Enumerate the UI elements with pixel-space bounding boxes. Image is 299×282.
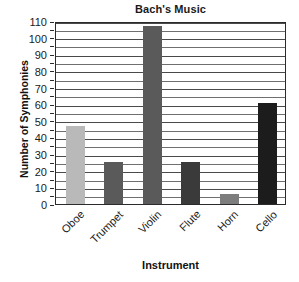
y-axis-tick-mark (50, 205, 54, 206)
y-axis-tick-label: 60 (35, 100, 47, 111)
x-axis-tick-label: Oboe (59, 208, 87, 236)
y-axis-tick-mark (50, 171, 54, 172)
bar (181, 162, 200, 204)
y-axis-tick-mark (50, 121, 54, 122)
plot-area (55, 22, 286, 205)
y-axis-tick-label: 20 (35, 166, 47, 177)
y-axis-tick-mark (50, 38, 54, 39)
y-axis-tick-mark (50, 55, 54, 56)
y-axis-tick-mark (50, 138, 54, 139)
y-axis-tick-mark (50, 163, 54, 164)
y-axis-tick-mark (50, 46, 54, 47)
y-axis-tick-label: 40 (35, 133, 47, 144)
x-axis-tick-label: Flute (177, 208, 203, 234)
chart-title: Bach's Music (55, 3, 286, 15)
y-axis-tick-label: 110 (29, 17, 47, 28)
y-axis-tick-mark (50, 105, 54, 106)
y-axis-tick-mark (50, 88, 54, 89)
y-axis-tick-mark (50, 196, 54, 197)
bar-chart-figure: Bach's Music Number of Symphonies 010203… (0, 0, 299, 282)
bar (143, 26, 162, 204)
y-axis-tick-label: 100 (29, 33, 47, 44)
x-axis-tick-label: Violin (136, 208, 163, 235)
bar-series (56, 23, 285, 204)
y-axis-tick-mark (50, 180, 54, 181)
x-axis-tick-labels: OboeTrumpetViolinFluteHornCello (55, 205, 286, 259)
y-axis-tick-label: 90 (35, 50, 47, 61)
x-axis-tick-label: Trumpet (88, 208, 125, 245)
y-axis-tick-label: 70 (35, 83, 47, 94)
y-axis-tick-mark (50, 188, 54, 189)
y-axis-tick-mark (50, 80, 54, 81)
y-axis-tick-mark (50, 113, 54, 114)
bar (220, 194, 239, 204)
bar (104, 162, 123, 204)
y-axis-tick-mark (50, 63, 54, 64)
y-axis-tick-label: 30 (35, 150, 47, 161)
y-axis-tick-labels: 0102030405060708090100110 (0, 22, 51, 205)
x-axis-tick-label: Cello (253, 208, 279, 234)
y-axis-tick-mark (50, 30, 54, 31)
y-axis-tick-mark (50, 155, 54, 156)
y-axis-tick-mark (50, 71, 54, 72)
bar (258, 103, 277, 204)
y-axis-tick-mark (50, 130, 54, 131)
y-axis-tick-mark (50, 146, 54, 147)
bar (66, 126, 85, 204)
y-axis-tick-mark (50, 22, 54, 23)
y-axis-tick-label: 0 (41, 200, 47, 211)
y-axis-tick-mark (50, 96, 54, 97)
y-axis-tick-label: 80 (35, 66, 47, 77)
y-axis-tick-label: 10 (35, 183, 47, 194)
y-axis-tick-label: 50 (35, 116, 47, 127)
x-axis-tick-label: Horn (215, 208, 240, 233)
x-axis-label: Instrument (55, 259, 286, 271)
